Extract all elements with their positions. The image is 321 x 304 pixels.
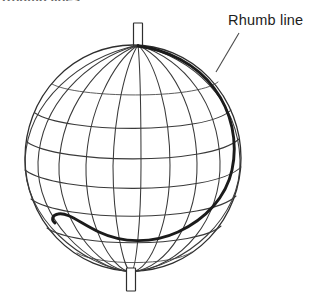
figure-container: Rhumb lines [0,0,321,304]
globe-outline [25,45,241,271]
rhumb-line-label: Rhumb line [228,12,303,28]
south-pole-pin [127,268,136,291]
north-pole-pin [134,23,143,47]
rhumb-line-leader [216,33,239,72]
globe-diagram-svg [0,0,321,304]
